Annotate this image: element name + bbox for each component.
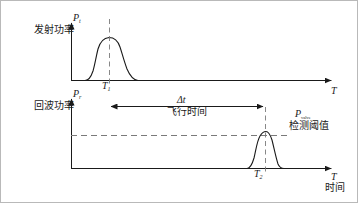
transmit-peak-time-label: T1 bbox=[102, 81, 111, 91]
detection-threshold-label: 检测阈值 bbox=[289, 121, 329, 131]
flight-time-label: 飞行时间 bbox=[167, 107, 207, 117]
transmit-x-axis-symbol: T bbox=[331, 86, 337, 96]
tof-pulse-diagram: Pt 发射功率 Pr 回波功率 T1 T2 Δt 飞行时间 Pvalve 检测阈… bbox=[0, 0, 358, 203]
echo-x-axis-symbol: T bbox=[331, 172, 337, 182]
echo-y-axis-symbol: Pr bbox=[73, 89, 81, 99]
flight-time-symbol: Δt bbox=[177, 95, 186, 105]
echo-peak-time-label: T2 bbox=[254, 169, 263, 179]
echo-y-axis-label: 回波功率 bbox=[34, 101, 74, 111]
detection-threshold-symbol: Pvalve bbox=[295, 109, 311, 119]
transmit-chart bbox=[72, 19, 332, 87]
echo-pulse-curve bbox=[72, 132, 332, 169]
transmit-y-axis-symbol: Pt bbox=[73, 13, 81, 23]
transmit-y-axis-label: 发射功率 bbox=[34, 25, 74, 35]
transmit-pulse-curve bbox=[72, 38, 332, 81]
echo-x-axis-label: 时间 bbox=[325, 183, 345, 193]
